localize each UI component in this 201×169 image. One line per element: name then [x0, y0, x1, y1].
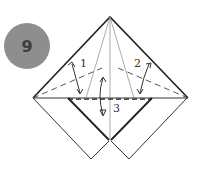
- left-valley-fold: [33, 68, 102, 98]
- arrow-1-icon: [72, 64, 80, 93]
- arrow-2-icon: [140, 64, 149, 93]
- fold-label-1: 1: [80, 57, 87, 70]
- arrow-3-icon: [100, 78, 103, 115]
- fold-label-2: 2: [134, 57, 141, 70]
- origami-diagram: 1 2 3: [0, 0, 201, 169]
- fold-label-3: 3: [113, 102, 120, 115]
- inner-left-edge: [68, 98, 109, 140]
- right-valley-fold: [118, 68, 188, 98]
- outer-triangle-edges: [33, 17, 188, 98]
